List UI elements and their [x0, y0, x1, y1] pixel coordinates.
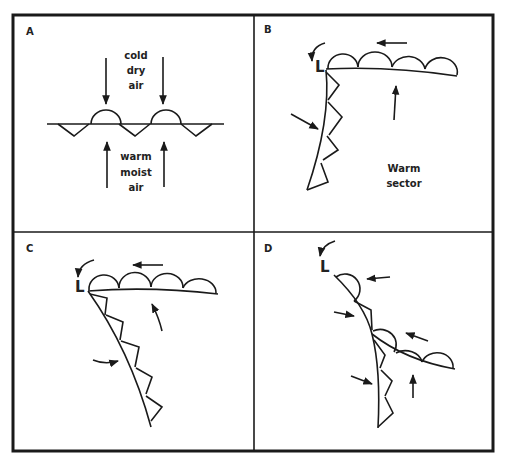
frontal-cyclone-diagram: A cold dry air warm moist air: [0, 0, 505, 461]
panel-label-b: B: [264, 24, 272, 35]
warm-front-c: [88, 272, 218, 294]
panel-a: A cold dry air warm moist air: [26, 26, 224, 193]
low-pressure-label-d: L: [320, 258, 330, 276]
wind-arrows-d: [334, 277, 428, 398]
panel-label-d: D: [264, 243, 272, 254]
rotation-arrow-d: [320, 241, 335, 256]
low-pressure-label-c: L: [75, 278, 85, 296]
warm-front-b: [326, 52, 457, 76]
panel-label-a: A: [26, 26, 34, 37]
stationary-front: [47, 110, 224, 136]
svg-text:cold: cold: [124, 50, 147, 61]
low-pressure-label-b: L: [315, 58, 325, 76]
svg-text:Warm: Warm: [388, 163, 421, 174]
svg-text:air: air: [128, 80, 143, 91]
panel-d: D L: [264, 241, 455, 428]
label-warm-sector: Warm sector: [386, 163, 421, 189]
figure-frame: [13, 15, 493, 451]
cold-front-c: [88, 291, 162, 427]
panel-label-c: C: [26, 243, 33, 254]
svg-text:moist: moist: [120, 167, 152, 178]
svg-text:sector: sector: [386, 178, 421, 189]
svg-text:dry: dry: [127, 65, 146, 76]
occluded-front-d: [334, 274, 455, 428]
rotation-arrow-c: [78, 260, 94, 277]
svg-text:air: air: [128, 182, 143, 193]
label-cold-dry-air: cold dry air: [124, 50, 147, 91]
svg-text:warm: warm: [120, 151, 151, 162]
cold-front-b: [307, 70, 342, 190]
label-warm-moist-air: warm moist air: [120, 151, 152, 193]
panel-b: B L Warm sector: [264, 24, 457, 190]
panel-c: C L: [26, 243, 218, 427]
